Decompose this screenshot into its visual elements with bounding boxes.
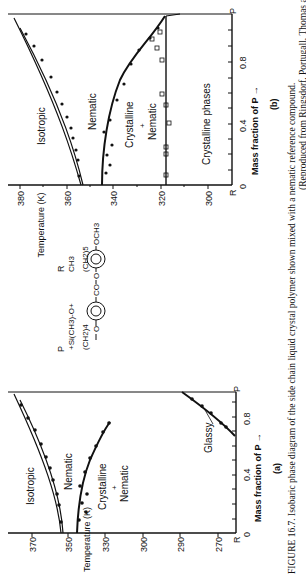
svg-text:+: + [138,123,147,128]
svg-text:0: 0 [238,184,248,189]
caption-line-1: FIGURE 16.7. Isobaric phase diagram of t… [287,83,297,575]
panel-a-chart: 370 350 330 300 290 270 Temperature (K) … [8,386,282,572]
svg-text:CO: CO [92,284,101,296]
svg-text:P: P [232,386,242,392]
panel-b-region-crystalline-phases: Crystalline phases [201,83,212,165]
panel-b-fraction-ticks: R 0 0.4 0.8 P [228,8,248,196]
panel-a-fraction-label: Mass fraction of P → [253,433,263,522]
svg-text:0.4: 0.4 [242,468,252,481]
panel-b-isotropic-upper-curve [14,18,81,185]
svg-text:OCH3: OCH3 [92,222,101,245]
benzene-ring-icon [87,302,105,320]
figure-page: 380 360 340 320 300 Temperature (K) R 0 … [0,0,306,577]
svg-text:Nematic: Nematic [119,465,130,502]
structure-R-label: R [56,265,66,272]
svg-text:0.4: 0.4 [238,119,248,132]
structure-R-head: CH3 [67,255,76,272]
panel-b-label: (b) [269,99,279,111]
caption-line-2: (Reproduced from Ringsdorf, Portugall, T… [298,0,306,190]
panel-b-region-isotropic: Isotropic [36,107,47,145]
structure-P-label: P [56,346,66,352]
panel-b-crystalline-boundary-curve [102,16,165,185]
svg-text:360: 360 [63,191,73,206]
panel-b-region-crystalline-nematic: Crystalline [124,101,135,148]
panel-a-region-crystalline-nematic: Crystalline [97,463,108,510]
chemical-structure: P +Si(CH3)-O+ (CH2)4 O CO O OCH3 R CH3 (… [56,222,105,352]
structure-R-spacer: (CH2)5 [81,246,90,272]
panel-b-fraction-label: Mass fraction of P → [250,86,260,175]
svg-text:+: + [110,485,119,490]
svg-text:P: P [228,8,238,14]
svg-text:340: 340 [109,191,119,206]
svg-text:300: 300 [204,191,214,206]
svg-text:330: 330 [101,537,111,552]
svg-text:Nematic: Nematic [147,103,158,140]
panel-a-temperature-label: Temperature (K) [82,507,92,572]
svg-text:370: 370 [28,537,38,552]
panel-a-region-glassy: Glassy [203,422,214,453]
panel-a-temperature-ticks: 370 350 330 300 290 270 [28,537,224,552]
svg-text:R: R [232,536,242,543]
svg-text:300: 300 [139,537,149,552]
svg-text:350: 350 [64,537,74,552]
svg-text:0.8: 0.8 [242,412,252,425]
structure-P-spacer: (CH2)4 [81,324,90,350]
panel-b-temperature-label: Temperature (K) [36,192,46,257]
panel-a-data-points [19,397,228,524]
svg-text:O: O [92,326,101,332]
panel-a-region-nematic: Nematic [63,453,74,490]
panel-b-chart: 380 360 340 320 300 Temperature (K) R 0 … [8,8,279,258]
panel-a-label: (a) [272,463,282,474]
svg-text:0.8: 0.8 [238,56,248,69]
svg-text:R: R [228,189,238,196]
svg-text:290: 290 [176,537,186,552]
panel-b-region-nematic: Nematic [87,93,98,130]
structure-P-chain: O CO O OCH3 [87,222,105,340]
svg-text:320: 320 [157,191,167,206]
structure-P-backbone: +Si(CH3)-O+ [67,303,76,350]
svg-text:270: 270 [214,537,224,552]
panel-a-region-isotropic: Isotropic [25,467,36,505]
svg-text:380: 380 [16,191,26,206]
figure-caption: FIGURE 16.7. Isobaric phase diagram of t… [287,0,306,574]
svg-text:O: O [92,273,101,279]
panel-a-isotropic-upper-curve [14,394,61,533]
svg-text:0: 0 [242,532,252,537]
